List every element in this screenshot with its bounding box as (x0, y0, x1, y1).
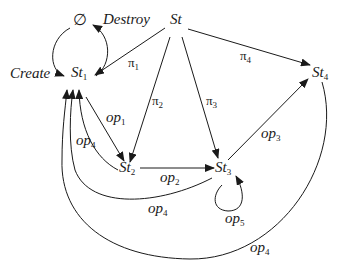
op4c-sub: 4 (265, 247, 270, 257)
op3-label: op (261, 125, 276, 141)
create-label: Create (10, 65, 50, 81)
node-st4-sub: 4 (324, 72, 329, 82)
node-st: St (170, 12, 182, 27)
edge-label-op4-st2: op4 (76, 133, 96, 150)
node-st4-label: St (312, 64, 324, 80)
edge-op5 (215, 176, 242, 211)
edge-label-op2: op2 (160, 170, 180, 187)
op4b-sub: 4 (163, 208, 168, 218)
edge-label-destroy: Destroy (103, 12, 150, 27)
op5-sub: 5 (240, 218, 245, 228)
node-empty: ∅ (73, 12, 87, 28)
pi4-sub: 4 (247, 55, 252, 65)
op2-label: op (160, 169, 175, 185)
edge-label-pi3: π3 (206, 93, 217, 110)
node-st2-sub: 2 (131, 167, 136, 177)
op1-label: op (106, 109, 121, 125)
op3-sub: 3 (276, 133, 281, 143)
edge-op4-st2 (79, 90, 118, 170)
node-st3-label: St (215, 159, 227, 175)
op4c-label: op (250, 239, 265, 255)
node-st1-label: St (71, 64, 83, 80)
node-st3: St3 (215, 160, 231, 177)
op4a-label: op (76, 132, 91, 148)
node-st4: St4 (312, 65, 328, 82)
op5-label: op (225, 210, 240, 226)
node-st2-label: St (119, 159, 131, 175)
node-st3-sub: 3 (227, 167, 232, 177)
pi4-label: π (240, 48, 247, 63)
node-st2: St2 (119, 160, 135, 177)
node-st1: St1 (71, 65, 87, 82)
pi1-label: π (128, 55, 135, 70)
node-st-label: St (170, 11, 182, 27)
edge-label-op5: op5 (225, 211, 245, 228)
edge-label-op4-st3: op4 (148, 201, 168, 218)
pi1-sub: 1 (135, 62, 140, 72)
op4b-label: op (148, 200, 163, 216)
pi3-sub: 3 (213, 100, 218, 110)
op2-sub: 2 (175, 177, 180, 187)
edge-label-pi1: π1 (128, 55, 139, 72)
edge-op4-st4 (62, 82, 327, 259)
edge-label-op3: op3 (261, 126, 281, 143)
edge-op1 (86, 97, 124, 161)
node-empty-label: ∅ (73, 11, 87, 28)
pi2-label: π (152, 93, 159, 108)
op4a-sub: 4 (91, 140, 96, 150)
op1-sub: 1 (121, 117, 126, 127)
edge-label-op1: op1 (106, 110, 126, 127)
pi3-label: π (206, 93, 213, 108)
destroy-label: Destroy (103, 11, 150, 27)
edge-label-pi4: π4 (240, 48, 251, 65)
pi2-sub: 2 (159, 100, 164, 110)
diagram-canvas (0, 0, 338, 269)
edge-create (53, 28, 70, 76)
node-st1-sub: 1 (83, 72, 88, 82)
edge-label-op4-st4: op4 (250, 240, 270, 257)
edge-op3 (228, 79, 308, 160)
edge-label-create: Create (10, 66, 50, 81)
edge-label-pi2: π2 (152, 93, 163, 110)
